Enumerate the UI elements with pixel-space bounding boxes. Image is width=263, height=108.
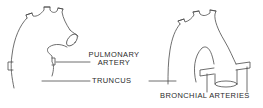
truncus-label: TRUNCUS: [92, 77, 131, 85]
right-figure: [149, 10, 250, 92]
branch-cap-3: [58, 8, 63, 9]
right-branch-cap-3: [210, 10, 216, 11]
right-outer-wall: [168, 24, 180, 84]
right-inner-arch: [194, 47, 214, 82]
diagram-canvas: PULMONARY ARTERY TRUNCUS BRONCHIAL ARTER…: [0, 0, 263, 108]
left-inner-wall: [47, 44, 67, 76]
right-branch-cap-1: [178, 19, 184, 21]
right-lower-opening: [215, 81, 237, 87]
right-arch-top: [178, 10, 236, 64]
left-arch-top: [26, 7, 70, 30]
pulmonary-artery-label: PULMONARY ARTERY: [88, 51, 140, 67]
left-side-stub: [8, 62, 13, 70]
pulmonary-stub: [52, 58, 55, 65]
bronchial-arteries-label: BRONCHIAL ARTERIES: [160, 92, 250, 100]
bronchial-stub-right: [236, 62, 250, 70]
branch-cap-1: [26, 13, 32, 15]
pulmonary-artery-label-line2: ARTERY: [88, 59, 140, 67]
left-outer-wall: [11, 18, 27, 88]
right-branch-cap-2: [193, 11, 199, 12]
left-figure: [8, 7, 90, 88]
aorta-opening: [64, 32, 79, 48]
